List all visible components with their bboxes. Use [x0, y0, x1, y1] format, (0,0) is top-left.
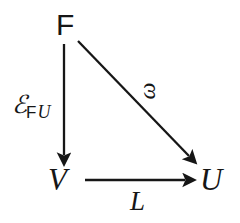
subscript-u: U — [37, 102, 50, 122]
node-label-U: U — [200, 164, 222, 195]
edge-label-omega: ω — [135, 83, 159, 100]
edge-label-l: L — [130, 188, 145, 215]
node-label-F: F — [56, 10, 75, 40]
commutative-diagram: F V U ℰFU ω L — [0, 0, 240, 223]
node-label-V: V — [48, 164, 67, 195]
script-e-glyph: ℰ — [12, 90, 27, 119]
edge-label-epsilon-fu: ℰFU — [12, 92, 50, 117]
subscript-f: F — [26, 103, 36, 122]
